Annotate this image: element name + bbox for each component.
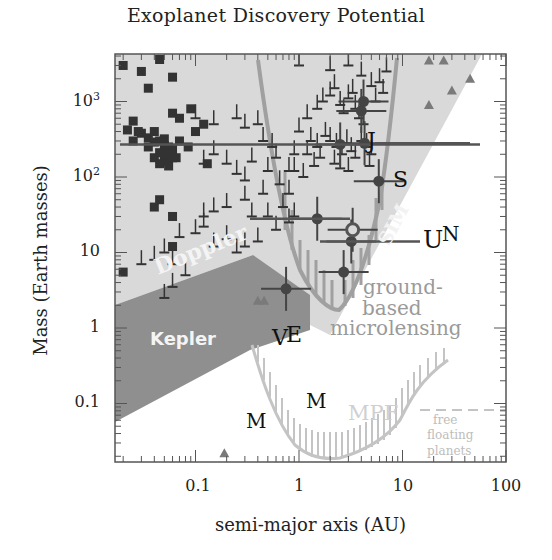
planet-earth-label: E (286, 322, 302, 347)
free-label-1: free (433, 413, 457, 427)
planet-mercury-label: M (246, 409, 266, 433)
ytick-0.1: 0.1 (75, 392, 100, 411)
mpf-label: MPF (348, 401, 398, 425)
free-label-3: planets (427, 444, 471, 458)
y-axis-label: Mass (Earth masses) (30, 161, 51, 361)
planet-neptune-label: N (442, 222, 460, 246)
planet-saturn-label: S (393, 167, 408, 192)
ytick-10: 10 (80, 241, 100, 260)
ytick-100: 102 (73, 165, 100, 185)
xtick-10: 10 (373, 476, 433, 495)
planet-mars-label: M (306, 389, 326, 413)
x-axis-label: semi-major axis (AU) (115, 514, 506, 535)
xtick-0.1: 0.1 (168, 476, 228, 495)
kepler-label: Kepler (150, 328, 216, 349)
free-label-2: floating (427, 428, 474, 442)
xtick-100: 100 (476, 476, 536, 495)
ground-label-3: microlensing (330, 316, 462, 340)
planet-jupiter-label: J (365, 128, 376, 153)
ytick-1: 1 (90, 317, 100, 336)
planet-uranus-label: U (423, 226, 443, 254)
xtick-1: 1 (269, 476, 329, 495)
ytick-1000: 103 (73, 90, 100, 110)
